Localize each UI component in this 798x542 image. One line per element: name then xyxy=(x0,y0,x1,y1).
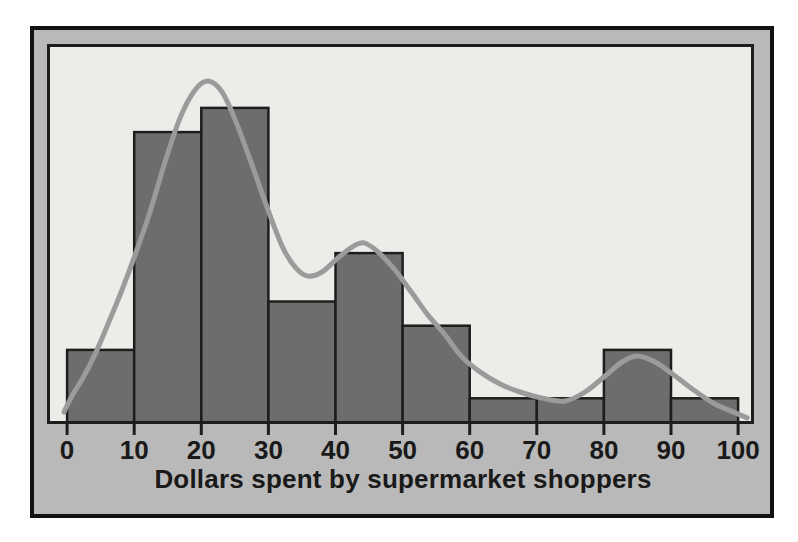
x-axis-tick-label: 0 xyxy=(60,435,74,465)
histogram-bar xyxy=(604,350,671,423)
histogram-bar xyxy=(470,398,537,422)
x-axis-tick-label: 70 xyxy=(522,435,551,465)
histogram-bar xyxy=(403,326,470,423)
histogram-bar xyxy=(268,302,335,423)
x-axis-tick-label: 10 xyxy=(120,435,149,465)
x-axis-tick-label: 60 xyxy=(455,435,484,465)
x-axis-tick-label: 50 xyxy=(388,435,417,465)
histogram-bar xyxy=(134,132,201,422)
histogram-chart: 0102030405060708090100 xyxy=(0,0,798,542)
x-axis-tick-label: 30 xyxy=(254,435,283,465)
x-axis-tick-label: 20 xyxy=(187,435,216,465)
x-axis-title: Dollars spent by supermarket shoppers xyxy=(67,464,739,494)
x-axis-tick-label: 80 xyxy=(589,435,618,465)
histogram-bar xyxy=(201,108,268,423)
x-axis-tick-label: 40 xyxy=(321,435,350,465)
histogram-bar xyxy=(336,253,403,422)
x-axis-tick-label: 100 xyxy=(716,435,759,465)
x-axis-tick-label: 90 xyxy=(657,435,686,465)
